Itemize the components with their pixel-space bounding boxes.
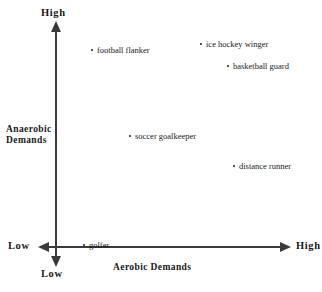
x-axis-low-caption: Low — [8, 240, 30, 251]
x-axis-title: Aerobic Demands — [113, 262, 191, 272]
data-point-label: soccer goalkeeper — [135, 131, 196, 141]
y-axis-line — [55, 30, 57, 262]
data-point — [129, 135, 131, 137]
y-axis-low-caption: Low — [41, 268, 63, 279]
y-axis-high-caption: High — [41, 7, 66, 18]
x-axis-high-caption: High — [296, 240, 321, 251]
data-point — [227, 65, 229, 67]
data-point — [200, 43, 202, 45]
data-point-label: ice hockey winger — [206, 39, 268, 49]
data-point-label: basketball guard — [233, 61, 289, 71]
y-axis-title: AnaerobicDemands — [6, 124, 52, 146]
data-point — [91, 49, 93, 51]
data-point-label: football flanker — [97, 45, 150, 55]
x-axis-line — [45, 246, 282, 248]
y-axis-title-line: Demands — [6, 135, 52, 146]
y-axis-down-arrow-icon — [51, 256, 61, 267]
y-axis-title-line: Anaerobic — [6, 124, 52, 135]
data-point-label: golfer — [89, 240, 109, 250]
y-axis-up-arrow-icon — [51, 21, 61, 32]
x-axis-left-arrow-icon — [38, 242, 49, 252]
scatter-plot-figure: High Low Low High AnaerobicDemands Aerob… — [0, 0, 322, 292]
x-axis-right-arrow-icon — [280, 242, 291, 252]
data-point-label: distance runner — [239, 161, 291, 171]
data-point — [233, 165, 235, 167]
